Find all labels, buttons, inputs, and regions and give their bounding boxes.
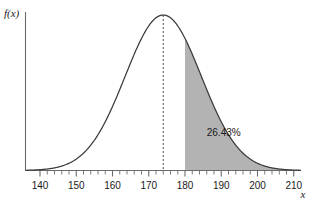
x-axis-tick-label: 150: [68, 180, 85, 191]
shaded-area-percentage-label: 26.43%: [207, 127, 241, 138]
x-axis-tick-labels: 140150160170180190200210: [32, 180, 303, 191]
shaded-tail-area: [185, 38, 301, 170]
distribution-chart: 140150160170180190200210 f(x) x 26.43%: [0, 0, 314, 204]
x-axis-tick-label: 170: [140, 180, 157, 191]
x-axis-tick-label: 160: [104, 180, 121, 191]
x-axis-tick-label: 180: [177, 180, 194, 191]
normal-distribution-figure: 140150160170180190200210 f(x) x 26.43%: [0, 0, 314, 204]
shaded-area-group: [185, 38, 301, 170]
x-axis-title: x: [300, 188, 306, 200]
x-axis-tick-label: 200: [249, 180, 266, 191]
y-axis-title: f(x): [4, 7, 20, 20]
x-axis-ticks: [40, 171, 294, 177]
x-axis-tick-label: 140: [32, 180, 49, 191]
x-axis-tick-label: 190: [213, 180, 230, 191]
